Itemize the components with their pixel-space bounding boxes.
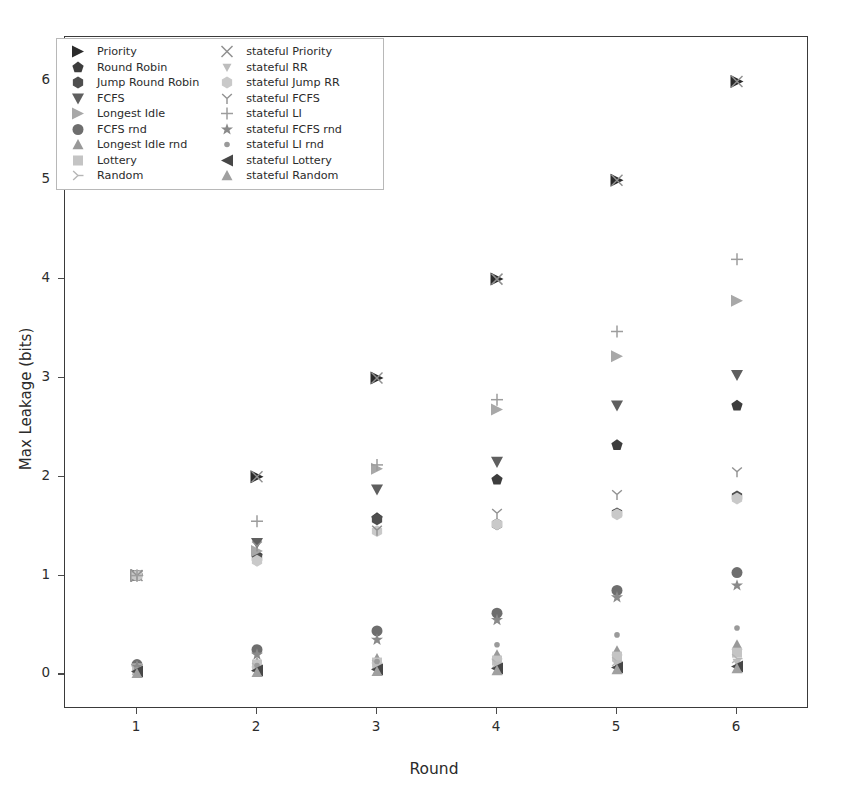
y-tick-0: 0 (0, 673, 64, 674)
legend-item[interactable]: stateful Jump RR (212, 75, 377, 91)
data-point (492, 518, 502, 530)
legend-item-label: Random (97, 168, 143, 184)
legend-item-label: stateful FCFS (246, 91, 320, 107)
data-point (732, 567, 743, 578)
legend-item-label: stateful Lottery (246, 153, 332, 169)
legend-item-label: Lottery (97, 153, 137, 169)
triangle-right-light-marker (63, 106, 97, 122)
legend-item-label: Round Robin (97, 60, 167, 76)
legend-item[interactable]: stateful Random (212, 168, 377, 184)
y-tick-label: 3 (41, 368, 50, 384)
x-axis-label: Round (0, 760, 868, 778)
legend-item-label: Longest Idle rnd (97, 137, 187, 153)
y-tick-label: 2 (41, 467, 50, 483)
data-point (374, 659, 380, 665)
legend-item[interactable]: FCFS rnd (63, 122, 212, 138)
x-marker (212, 44, 246, 60)
data-point (611, 350, 623, 362)
x-tick-label: 2 (236, 718, 276, 734)
legend-item-label: stateful Jump RR (246, 75, 340, 91)
y-tick-6: 6 (0, 80, 64, 81)
legend-item-label: stateful LI rnd (246, 137, 324, 153)
y-tick-1: 1 (0, 575, 64, 576)
legend-item-label: stateful Random (246, 168, 338, 184)
legend-item[interactable]: stateful FCFS (212, 91, 377, 107)
y-tick-label: 1 (41, 566, 50, 582)
legend-item[interactable]: stateful LI rnd (212, 137, 377, 153)
legend-item[interactable]: FCFS (63, 91, 212, 107)
y-tick-label: 6 (41, 71, 50, 87)
legend-item[interactable]: stateful RR (212, 60, 377, 76)
legend-item-label: Jump Round Robin (97, 75, 199, 91)
data-point (731, 370, 743, 381)
data-point (611, 401, 623, 412)
triangle-left-marker (212, 153, 246, 169)
legend-column-left: PriorityRound RobinJump Round RobinFCFSL… (63, 44, 212, 184)
triangle-up-marker (63, 137, 97, 153)
y-tick-5: 5 (0, 179, 64, 180)
legend-item-label: Longest Idle (97, 106, 165, 122)
data-point (732, 467, 742, 477)
legend-item[interactable]: stateful Lottery (212, 153, 377, 169)
legend-item[interactable]: stateful Priority (212, 44, 377, 60)
legend-box: PriorityRound RobinJump Round RobinFCFSL… (56, 38, 384, 190)
legend-item-label: Priority (97, 44, 137, 60)
star-marker (212, 122, 246, 138)
data-point (731, 579, 743, 590)
x-tick-label: 4 (476, 718, 516, 734)
legend-item[interactable]: stateful LI (212, 106, 377, 122)
plus-marker (212, 106, 246, 122)
data-point (371, 634, 383, 645)
legend-item[interactable]: Random (63, 168, 212, 184)
data-point (612, 652, 622, 662)
x-tick-label: 3 (356, 718, 396, 734)
legend-item[interactable]: Round Robin (63, 60, 212, 76)
x-tick-label: 6 (716, 718, 756, 734)
legend-item[interactable]: Lottery (63, 153, 212, 169)
legend-item-label: stateful RR (246, 60, 308, 76)
data-point (251, 515, 263, 527)
triangle-right-marker (63, 44, 97, 60)
circle-marker (63, 122, 97, 138)
dot-marker (212, 137, 246, 153)
data-point (731, 400, 742, 411)
y-axis-label: Max Leakage (bits) (17, 328, 35, 471)
data-point (494, 642, 500, 648)
data-point (612, 490, 622, 500)
legend-item[interactable]: Priority (63, 44, 212, 60)
y-glyph-marker (212, 91, 246, 107)
tri-up-thin-marker (212, 168, 246, 184)
legend-item[interactable]: Longest Idle (63, 106, 212, 122)
pentagon-marker (63, 60, 97, 76)
data-point (491, 394, 503, 406)
legend-item-label: stateful LI (246, 106, 302, 122)
data-point (731, 253, 743, 265)
data-point (734, 625, 740, 631)
data-point (611, 325, 623, 337)
x-tick-label: 1 (116, 718, 156, 734)
legend-column-right: stateful Prioritystateful RRstateful Jum… (212, 44, 377, 184)
data-point (491, 457, 503, 468)
square-marker (63, 153, 97, 169)
hexagon-light-marker (212, 75, 246, 91)
tri-right-marker (63, 168, 97, 184)
y-tick-4: 4 (0, 278, 64, 279)
legend-item[interactable]: Longest Idle rnd (63, 137, 212, 153)
data-point (611, 439, 622, 450)
y-tick-label: 0 (41, 664, 50, 680)
data-point (491, 474, 502, 485)
legend-item-label: FCFS (97, 91, 125, 107)
tri-down-small-marker (212, 60, 246, 76)
triangle-down-marker (63, 91, 97, 107)
data-point (371, 485, 383, 496)
legend-item[interactable]: Jump Round Robin (63, 75, 212, 91)
legend-item-label: stateful Priority (246, 44, 332, 60)
legend-item-label: FCFS rnd (97, 122, 147, 138)
y-tick-label: 5 (41, 170, 50, 186)
legend-item[interactable]: stateful FCFS rnd (212, 122, 377, 138)
data-point (731, 295, 743, 307)
y-tick-2: 2 (0, 476, 64, 477)
y-tick-label: 4 (41, 269, 50, 285)
scatter-chart-figure: 0123456 Max Leakage (bits) Round 123456 … (0, 0, 868, 798)
x-tick-label: 5 (596, 718, 636, 734)
